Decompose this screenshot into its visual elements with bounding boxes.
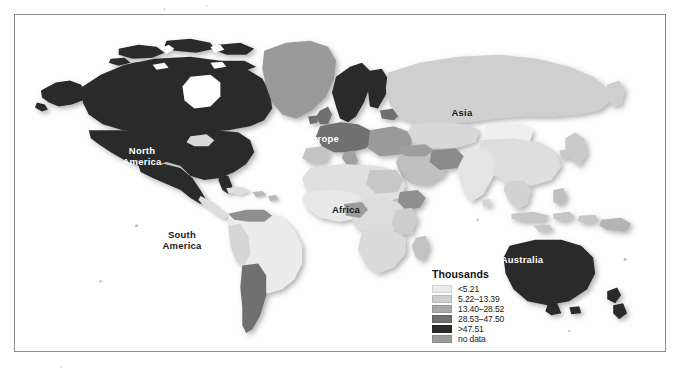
map-frame: North America South America Europe Afric…	[14, 14, 666, 352]
legend-swatch	[432, 295, 452, 303]
legend-label: no data	[458, 334, 486, 344]
legend-swatch	[432, 315, 452, 323]
scan-speckle	[206, 5, 208, 7]
legend-row: 13.40–28.52	[419, 304, 537, 313]
scan-speckle	[60, 366, 62, 368]
legend-label: 13.40–28.52	[458, 304, 504, 314]
legend-swatch	[432, 305, 452, 313]
map-legend: Thousands <5.21 5.22–13.39 13.40–28.52 2…	[419, 268, 537, 344]
island-dot	[476, 218, 479, 221]
legend-row: no data	[419, 334, 537, 343]
legend-swatch	[432, 285, 452, 293]
island-dot	[99, 280, 102, 283]
legend-label: 28.53–47.50	[458, 314, 504, 324]
legend-swatch	[432, 335, 452, 343]
world-map	[15, 15, 665, 351]
legend-swatch	[432, 325, 452, 333]
legend-title: Thousands	[432, 268, 537, 280]
legend-row: 28.53–47.50	[419, 314, 537, 323]
legend-row: 5.22–13.39	[419, 294, 537, 303]
country-tasmania	[569, 306, 581, 314]
island-dot	[568, 330, 571, 333]
island-dot	[624, 258, 627, 261]
legend-row: <5.21	[419, 284, 537, 293]
figure-container: North America South America Europe Afric…	[0, 0, 679, 378]
scan-speckle	[163, 8, 166, 11]
legend-label: >47.51	[458, 324, 484, 334]
island-dot	[135, 224, 138, 227]
legend-row: >47.51	[419, 324, 537, 333]
legend-label: <5.21	[458, 284, 479, 294]
legend-label: 5.22–13.39	[458, 294, 500, 304]
